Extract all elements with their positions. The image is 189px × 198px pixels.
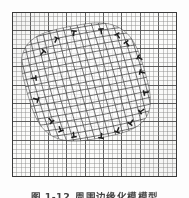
figure-plate [12, 12, 177, 177]
figure-container: 图 1-12周围边缘化模模型 [0, 0, 189, 198]
mesh-diagram [12, 12, 177, 177]
inner-mesh [12, 12, 173, 160]
caption-title: 周围边缘化模模型 [75, 191, 158, 198]
figure-caption: 图 1-12周围边缘化模模型 [0, 186, 189, 198]
caption-text: 图 1-12周围边缘化模模型 [31, 191, 159, 198]
caption-label: 图 1-12 [31, 191, 70, 198]
